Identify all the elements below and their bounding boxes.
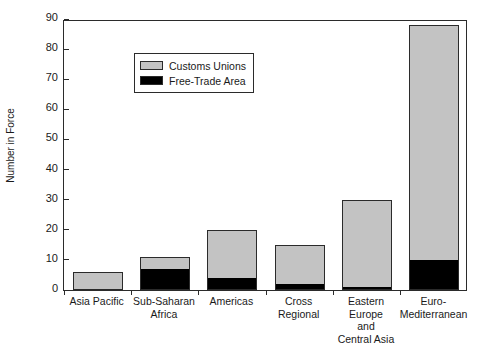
bar-segment-free-trade-area [140,269,190,290]
y-axis-tick-label: 70 [46,71,58,83]
y-axis-tick-mark [64,259,69,260]
y-axis-tick-label: 10 [46,252,58,264]
bar-segment-free-trade-area [207,278,257,290]
x-axis-category-label: Eastern Europe and Central Asia [332,295,399,344]
bar-5 [409,25,459,290]
y-axis-tick-mark [64,19,69,20]
y-axis-tick-mark [64,49,69,50]
bar-segment-customs-unions [207,230,257,278]
legend-label: Customs Unions [169,60,246,72]
bar-segment-customs-unions [73,272,123,290]
legend-swatch-customs [140,61,163,70]
y-axis-title-text: Number in Force [5,108,16,182]
x-axis-category-label: Cross Regional [265,295,332,320]
y-axis-tick-mark [64,109,69,110]
y-axis-tick-mark [64,290,69,291]
bar-3 [275,245,325,290]
y-axis-tick-mark [64,139,69,140]
legend-swatch-fta [140,76,163,85]
y-axis-title: Number in Force [2,0,18,290]
y-axis-tick-label: 80 [46,41,58,53]
y-axis-tick-mark [64,79,69,80]
y-axis-tick-mark [64,199,69,200]
legend-item-1: Free-Trade Area [140,73,246,88]
y-axis-tick-label: 0 [52,282,58,294]
bar-1 [140,257,190,290]
bar-segment-free-trade-area [409,260,459,290]
bar-segment-customs-unions [342,200,392,287]
y-axis-tick-label: 20 [46,222,58,234]
stacked-bar-chart-figure: Number in Force 0102030405060708090 Cust… [0,0,490,344]
bar-segment-customs-unions [140,257,190,269]
y-axis-tick-label: 40 [46,162,58,174]
bar-segment-customs-unions [409,25,459,260]
x-axis-category-label: Euro- Mediterranean [400,295,467,320]
y-axis-tick-label: 60 [46,101,58,113]
bar-4 [342,200,392,290]
x-axis-category-label: Americas [198,295,265,308]
chart-legend: Customs UnionsFree-Trade Area [134,53,254,93]
bar-0 [73,272,123,290]
y-axis-tick-label: 30 [46,192,58,204]
bar-segment-free-trade-area [275,284,325,290]
legend-label: Free-Trade Area [169,75,246,87]
plot-area: 0102030405060708090 Customs UnionsFree-T… [63,20,467,291]
y-axis-tick-label: 90 [46,11,58,23]
legend-item-0: Customs Unions [140,58,246,73]
y-axis-tick-label: 50 [46,131,58,143]
x-axis-category-label: Sub-Saharan Africa [130,295,197,320]
bar-segment-customs-unions [275,245,325,284]
y-axis-tick-mark [64,169,69,170]
x-axis-category-label: Asia Pacific [63,295,130,308]
bar-2 [207,230,257,290]
bar-segment-free-trade-area [342,287,392,290]
y-axis-tick-mark [64,229,69,230]
